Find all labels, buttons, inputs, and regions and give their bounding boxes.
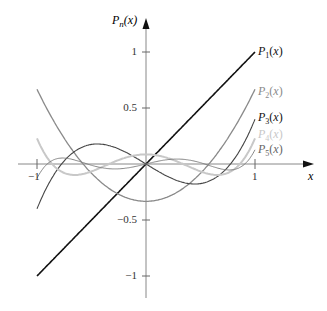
series-label-p2: P2(x) <box>258 85 283 100</box>
y-tick-label: 0.5 <box>123 102 137 113</box>
x-tick-label: 1 <box>252 171 258 182</box>
x-axis-arrow-icon <box>303 161 314 168</box>
series-label-p5: P5(x) <box>258 143 283 158</box>
y-axis-label-arg: (x) <box>124 13 137 27</box>
x-axis-label: x <box>308 170 313 182</box>
y-axis-arrow-icon <box>143 18 150 29</box>
y-tick-label: −0.5 <box>117 214 137 225</box>
y-tick-label: 1 <box>132 46 138 57</box>
y-tick-label: −1 <box>125 270 137 281</box>
series-label-p3: P3(x) <box>258 111 283 126</box>
series-label-p1: P1(x) <box>258 45 283 60</box>
x-tick-label: −1 <box>28 171 40 182</box>
y-axis-label: Pn(x) <box>112 14 137 29</box>
